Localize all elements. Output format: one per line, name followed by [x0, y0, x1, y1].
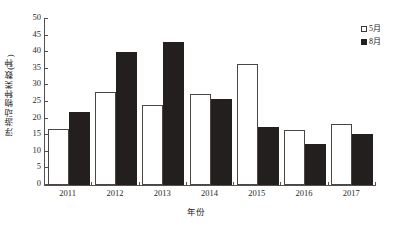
bar-group — [284, 19, 326, 185]
legend-item: 8月 — [361, 37, 381, 47]
y-axis-tick-label: 50 — [33, 12, 42, 23]
bar-group — [48, 19, 90, 185]
x-axis-tick-mark — [328, 182, 329, 186]
hollow-square-icon — [361, 26, 367, 32]
y-axis-tick-label: 10 — [33, 145, 42, 156]
bar-may — [284, 130, 305, 185]
bar-may — [237, 64, 258, 185]
y-axis-tick-label: 35 — [33, 62, 42, 73]
y-axis-tick-label: 45 — [33, 29, 42, 40]
zooplankton-species-bar-chart: 浮游动物种类数(种) 05101520253035404550 20112012… — [0, 0, 393, 227]
filled-square-icon — [361, 39, 367, 45]
legend-item-label: 8月 — [369, 37, 381, 47]
bar-may — [331, 124, 352, 185]
bar-group — [95, 19, 137, 185]
bar-group — [237, 19, 279, 185]
legend-item: 5月 — [361, 24, 381, 34]
bar-august — [352, 134, 373, 185]
plot-area: 05101520253035404550 2011201220132014201… — [44, 19, 375, 186]
x-axis-line — [44, 185, 375, 186]
x-axis-title-text: 年份 — [187, 207, 206, 217]
x-axis-tick-mark — [91, 182, 92, 186]
y-axis-tick-label: 5 — [37, 161, 41, 172]
y-axis-tick-label: 25 — [33, 95, 42, 106]
bar-group — [190, 19, 232, 185]
x-axis-tick-mark — [139, 182, 140, 186]
legend-item-label: 5月 — [369, 24, 381, 34]
bar-august — [211, 99, 232, 185]
x-axis-tick-mark — [233, 182, 234, 186]
x-axis-tick-mark — [375, 182, 376, 186]
bar-may — [48, 129, 69, 185]
x-axis-tick-mark — [280, 182, 281, 186]
y-axis-tick-label: 40 — [33, 45, 42, 56]
y-axis-line — [44, 19, 45, 186]
bar-may — [95, 92, 116, 185]
y-axis-title-text: 浮游动物种类数(种) — [6, 54, 15, 136]
bar-may — [142, 105, 163, 185]
bar-august — [69, 112, 90, 185]
x-axis-label: 2017 — [321, 188, 381, 198]
bar-group — [142, 19, 184, 185]
bar-may — [190, 94, 211, 185]
x-axis-tick-mark — [186, 182, 187, 186]
y-axis-title: 浮游动物种类数(种) — [2, 0, 18, 190]
legend: 5月8月 — [361, 24, 381, 47]
bar-august — [305, 144, 326, 186]
bar-august — [116, 52, 137, 185]
bar-august — [258, 127, 279, 185]
x-axis-title: 年份 — [0, 205, 393, 217]
y-axis-tick-label: 15 — [33, 128, 42, 139]
y-axis-tick-label: 20 — [33, 112, 42, 123]
y-axis-tick-label: 30 — [33, 78, 42, 89]
bar-august — [163, 42, 184, 185]
